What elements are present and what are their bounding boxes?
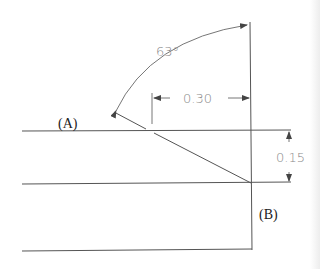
angle-arc <box>116 25 247 111</box>
chamfer-line-upper <box>114 112 146 129</box>
bottom-edge-line <box>22 249 252 251</box>
page-edge-shadow <box>310 0 320 269</box>
label-a: (A) <box>58 116 78 132</box>
angle-dimension: 63° <box>116 25 247 111</box>
vertical-reference-line <box>250 22 252 250</box>
vertical-dimension: 0.15 <box>276 132 305 181</box>
horizontal-dimension: 0.30 <box>152 91 249 124</box>
drawing-canvas: 63° 0.30 0.15 (A) (B) <box>0 0 320 269</box>
chamfer-line-lower <box>154 133 251 183</box>
horizontal-value: 0.30 <box>183 91 212 106</box>
angle-value: 63° <box>156 44 179 59</box>
label-b: (B) <box>259 207 278 223</box>
vertical-value: 0.15 <box>276 150 305 165</box>
